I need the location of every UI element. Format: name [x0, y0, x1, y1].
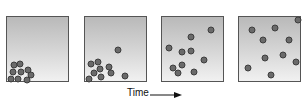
particle	[122, 73, 129, 80]
particle	[175, 70, 182, 77]
particle	[10, 69, 17, 76]
particle	[86, 76, 93, 83]
particle	[95, 59, 102, 66]
particle	[15, 76, 22, 83]
particle	[98, 74, 105, 81]
particle	[272, 25, 279, 32]
particle	[18, 69, 25, 76]
particle	[88, 61, 95, 68]
particle	[179, 49, 186, 56]
particle	[249, 27, 256, 34]
time-label: Time	[127, 87, 149, 98]
particle	[97, 66, 104, 73]
particle	[260, 37, 267, 44]
particle	[286, 37, 293, 44]
particle	[17, 61, 24, 68]
particle	[166, 45, 173, 52]
particle	[179, 62, 186, 69]
particle	[280, 52, 287, 59]
arrow-right-icon	[150, 92, 182, 98]
particle	[268, 72, 275, 79]
particle	[188, 48, 195, 55]
particle	[293, 59, 300, 66]
particle	[208, 27, 215, 34]
particle	[201, 57, 208, 64]
particle	[115, 47, 122, 54]
particle	[8, 76, 15, 83]
particle	[24, 77, 31, 84]
particle	[295, 17, 302, 24]
particle	[108, 70, 115, 77]
particle	[188, 34, 195, 41]
particle	[262, 55, 269, 62]
particle	[191, 69, 198, 76]
particle	[245, 65, 252, 72]
